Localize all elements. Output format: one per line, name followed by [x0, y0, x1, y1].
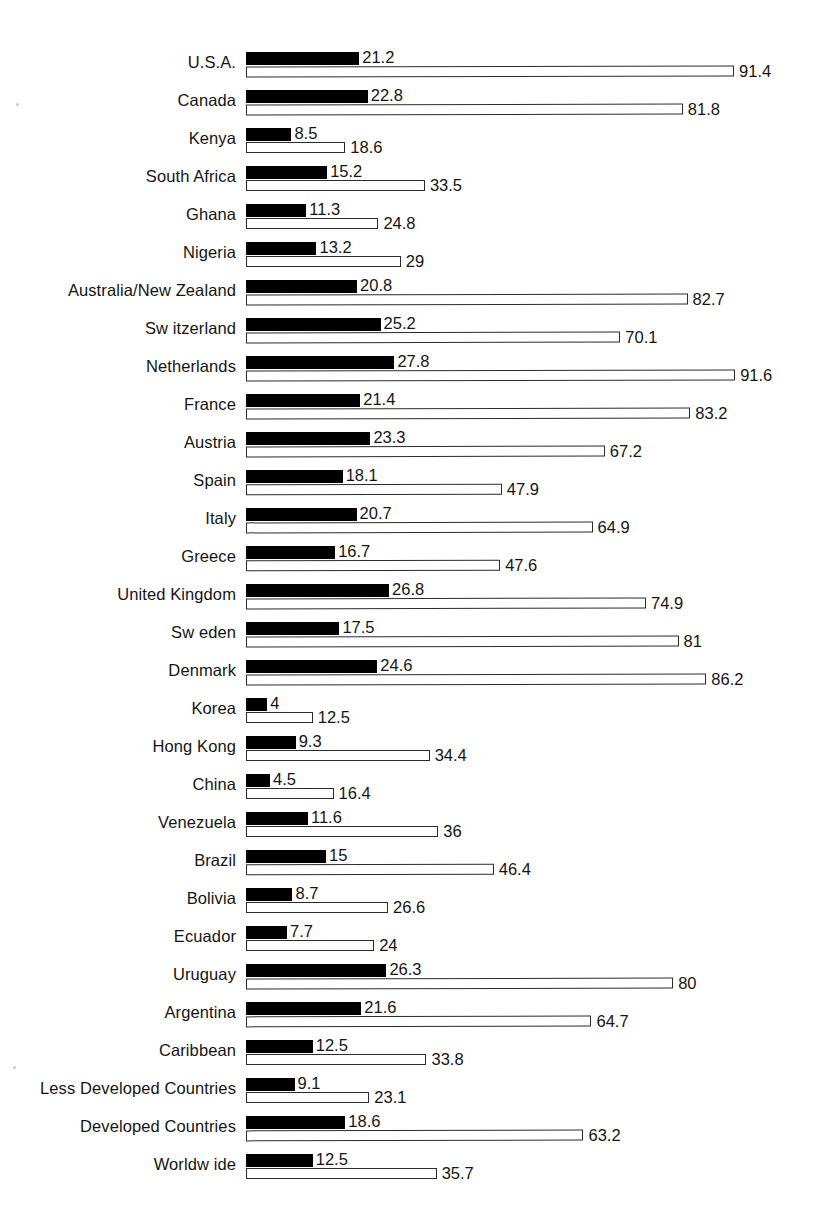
bar-white-series — [246, 940, 374, 951]
bar-black-series — [246, 1002, 361, 1015]
category-label: Hong Kong — [0, 737, 236, 756]
bar-white-series — [246, 104, 683, 116]
bar-value-label-white: 35.7 — [437, 1164, 474, 1183]
bar-value-label-black: 16.7 — [335, 542, 370, 561]
bar-value-label-white: 36 — [438, 822, 461, 841]
bar-black-series — [246, 584, 389, 597]
bar-value-label-black: 22.8 — [368, 86, 403, 105]
bar-value-label-black: 15 — [326, 846, 347, 865]
bar-black-series — [246, 964, 386, 977]
bar-black-series — [246, 622, 339, 635]
category-label: Ghana — [0, 205, 236, 224]
bar-value-label-white: 64.7 — [591, 1012, 628, 1031]
bar-value-label-white: 64.9 — [593, 518, 630, 537]
bar-value-label-black: 20.7 — [357, 504, 392, 523]
bar-black-series — [246, 774, 270, 787]
bar-row: South Africa15.233.5 — [0, 164, 823, 202]
bar-row: Ecuador7.724 — [0, 924, 823, 962]
bar-black-series — [246, 1154, 313, 1167]
scan-speck — [16, 103, 19, 106]
bar-row: Korea412.5 — [0, 696, 823, 734]
bar-value-label-white: 29 — [401, 252, 424, 271]
bar-row: Hong Kong9.334.4 — [0, 734, 823, 772]
bar-black-series — [246, 1078, 295, 1091]
bar-value-label-white: 12.5 — [313, 708, 350, 727]
category-label: Uruguay — [0, 965, 236, 984]
bar-value-label-black: 17.5 — [339, 618, 374, 637]
category-label: Denmark — [0, 661, 236, 680]
category-label: China — [0, 775, 236, 794]
bar-value-label-black: 26.3 — [386, 960, 421, 979]
bar-row: Denmark24.686.2 — [0, 658, 823, 696]
bar-white-series — [246, 407, 690, 419]
bar-value-label-white: 63.2 — [583, 1126, 620, 1145]
bar-black-series — [246, 356, 394, 369]
category-label: Italy — [0, 509, 236, 528]
bar-value-label-white: 47.6 — [500, 556, 537, 575]
bar-value-label-black: 24.6 — [377, 656, 412, 675]
bar-black-series — [246, 736, 296, 749]
bar-white-series — [246, 1130, 583, 1142]
bar-value-label-white: 67.2 — [605, 442, 642, 461]
bar-value-label-white: 91.6 — [735, 366, 772, 385]
bar-value-label-black: 12.5 — [313, 1036, 348, 1055]
bar-value-label-white: 26.6 — [388, 898, 425, 917]
bar-value-label-white: 83.2 — [690, 404, 727, 423]
bar-value-label-black: 13.2 — [316, 238, 351, 257]
category-label: Less Developed Countries — [0, 1079, 236, 1098]
bar-black-series — [246, 242, 316, 255]
bar-white-series — [246, 142, 345, 153]
bar-row: Austria23.367.2 — [0, 430, 823, 468]
category-label: Developed Countries — [0, 1117, 236, 1136]
category-label: Bolivia — [0, 889, 236, 908]
bar-white-series — [246, 673, 706, 685]
bar-white-series — [246, 902, 388, 913]
grouped-bar-chart: U.S.A.21.291.4Canada22.881.8Kenya8.518.6… — [0, 0, 823, 1214]
bar-black-series — [246, 432, 370, 445]
bar-row: Developed Countries18.663.2 — [0, 1114, 823, 1152]
category-label: Kenya — [0, 129, 236, 148]
bar-value-label-black: 8.7 — [292, 884, 318, 903]
bar-value-label-white: 33.8 — [426, 1050, 463, 1069]
bar-black-series — [246, 508, 357, 521]
bar-black-series — [246, 394, 360, 407]
bar-row: Kenya8.518.6 — [0, 126, 823, 164]
bar-value-label-white: 81 — [679, 632, 702, 651]
bar-value-label-black: 8.5 — [291, 124, 317, 143]
bar-black-series — [246, 90, 368, 103]
bar-value-label-black: 7.7 — [287, 922, 313, 941]
bar-black-series — [246, 128, 291, 141]
bar-black-series — [246, 166, 327, 179]
bar-value-label-white: 46.4 — [494, 860, 531, 879]
category-label: Korea — [0, 699, 236, 718]
bar-value-label-white: 47.9 — [502, 480, 539, 499]
bar-value-label-black: 27.8 — [394, 352, 429, 371]
bar-white-series — [246, 1016, 591, 1028]
bar-value-label-black: 11.6 — [308, 808, 342, 827]
bar-value-label-black: 11.3 — [306, 200, 340, 219]
bar-value-label-white: 18.6 — [345, 138, 382, 157]
bar-value-label-white: 33.5 — [425, 176, 462, 195]
bar-row: Netherlands27.891.6 — [0, 354, 823, 392]
bar-row: Sw eden17.581 — [0, 620, 823, 658]
bar-white-series — [246, 1092, 369, 1103]
bar-value-label-black: 4.5 — [270, 770, 296, 789]
bar-row: Ghana11.324.8 — [0, 202, 823, 240]
bar-black-series — [246, 546, 335, 559]
category-label: Brazil — [0, 851, 236, 870]
bar-white-series — [246, 978, 673, 990]
bar-row: Canada22.881.8 — [0, 88, 823, 126]
bar-black-series — [246, 52, 359, 65]
category-label: South Africa — [0, 167, 236, 186]
category-label: Netherlands — [0, 357, 236, 376]
category-label: Venezuela — [0, 813, 236, 832]
category-label: Ecuador — [0, 927, 236, 946]
category-label: Sw itzerland — [0, 319, 236, 338]
bar-row: Venezuela11.636 — [0, 810, 823, 848]
category-label: Greece — [0, 547, 236, 566]
bar-value-label-white: 86.2 — [706, 670, 743, 689]
bar-white-series — [246, 750, 430, 761]
bar-white-series — [246, 712, 313, 723]
bar-white-series — [246, 446, 605, 458]
bar-row: Spain18.147.9 — [0, 468, 823, 506]
